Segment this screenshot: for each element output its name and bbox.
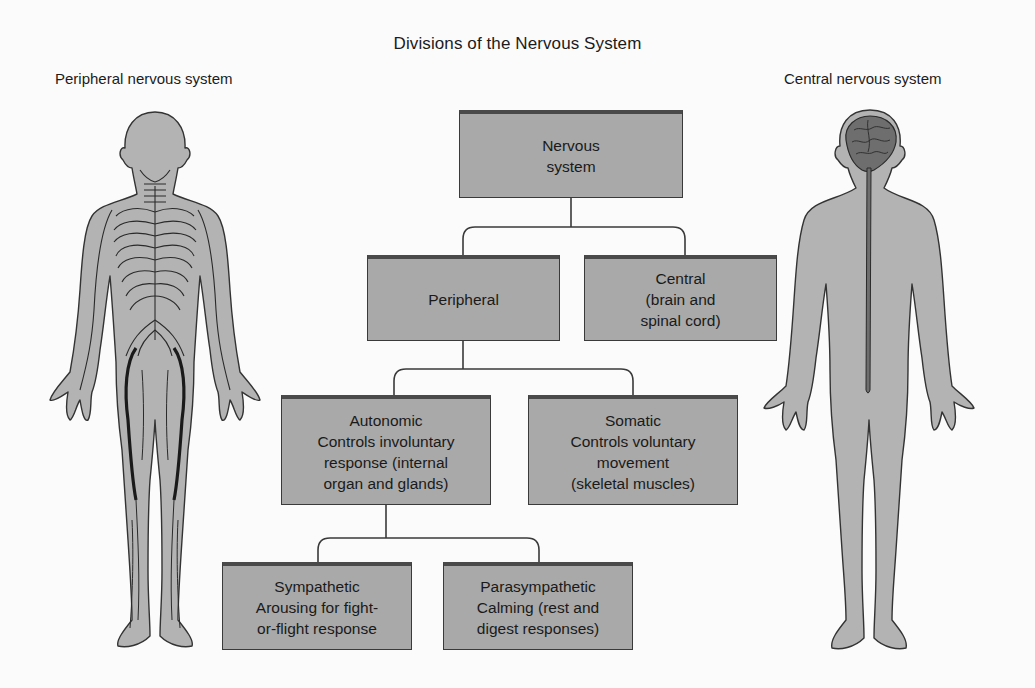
node-text-line: Autonomic xyxy=(318,410,455,431)
node-autonomic: Autonomic Controls involuntary response … xyxy=(281,395,491,505)
node-text-line: system xyxy=(542,156,600,177)
peripheral-nervous-system-figure-icon xyxy=(40,100,270,660)
node-text-line: response (internal xyxy=(318,452,455,473)
node-text-line: Controls involuntary xyxy=(318,431,455,452)
node-text-line: (brain and xyxy=(640,289,720,310)
node-text-line: Parasympathetic xyxy=(477,576,599,597)
central-nervous-system-figure-icon xyxy=(760,100,980,660)
node-peripheral: Peripheral xyxy=(367,255,560,341)
node-text-line: Controls voluntary xyxy=(571,431,696,452)
node-text-line: Nervous xyxy=(542,135,600,156)
node-text-line: Calming (rest and xyxy=(477,597,599,618)
node-nervous-system: Nervous system xyxy=(459,110,683,198)
spinal-cord-icon xyxy=(866,168,871,393)
node-somatic: Somatic Controls voluntary movement (ske… xyxy=(528,395,738,505)
node-text-line: or-flight response xyxy=(256,618,378,639)
central-nervous-system-label: Central nervous system xyxy=(784,70,942,87)
node-text-line: spinal cord) xyxy=(640,310,720,331)
node-text-line: Peripheral xyxy=(428,289,499,310)
node-text-line: movement xyxy=(571,452,696,473)
node-parasympathetic: Parasympathetic Calming (rest and digest… xyxy=(443,562,633,650)
node-text-line: organ and glands) xyxy=(318,473,455,494)
node-text-line: Central xyxy=(640,268,720,289)
node-text-line: Sympathetic xyxy=(256,576,378,597)
peripheral-nervous-system-label: Peripheral nervous system xyxy=(55,70,233,87)
node-text-line: Arousing for fight- xyxy=(256,597,378,618)
node-text-line: digest responses) xyxy=(477,618,599,639)
diagram-title: Divisions of the Nervous System xyxy=(0,34,1035,54)
node-text-line: Somatic xyxy=(571,410,696,431)
node-text-line: (skeletal muscles) xyxy=(571,473,696,494)
node-central: Central (brain and spinal cord) xyxy=(584,255,777,341)
